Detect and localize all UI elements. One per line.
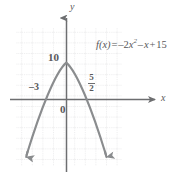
fraction-numerator: 5: [89, 72, 94, 82]
x-axis-label: x: [161, 93, 165, 103]
fraction-denominator: 2: [89, 83, 94, 93]
y-axis-label: y: [70, 2, 74, 12]
y-tick-label-10: 10: [48, 52, 59, 63]
function-equation-label: f(x) = –2x2 – x + 15: [96, 38, 167, 50]
exponent-2: 2: [133, 37, 137, 45]
x-intercept-label-left: –3: [29, 82, 39, 92]
parabola-figure: y x 10 0 –3 5 2 f(x) = –2x2 – x + 15: [0, 0, 176, 176]
linear-sign: –: [138, 39, 143, 50]
parabola-right-arrow: [105, 152, 106, 158]
x-intercept-label-right: 5 2: [88, 73, 95, 94]
constant-sign: +: [150, 39, 156, 50]
parabola-left-arrow: [26, 152, 27, 158]
function-name: f(x): [96, 39, 111, 50]
constant-15: 15: [156, 39, 167, 50]
origin-label: 0: [60, 104, 66, 115]
equals-sign: =: [111, 39, 117, 50]
linear-term-x: x: [144, 39, 149, 50]
